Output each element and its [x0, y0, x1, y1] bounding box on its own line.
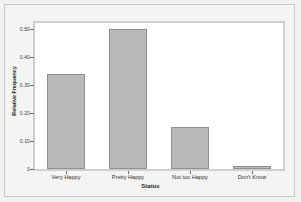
y-axis-tick-label: 0.20: [20, 110, 30, 116]
y-axis-tick-mark: [30, 29, 34, 30]
x-axis-tick-label: Don't Know: [238, 174, 266, 180]
chart-screenshot: 00.100.200.300.400.50 Relative Frequency…: [0, 0, 301, 202]
bar: [171, 127, 209, 169]
x-axis-title: Status: [0, 183, 301, 189]
y-axis-tick-label: 0.10: [20, 138, 30, 144]
x-axis-tick-label: Pretty Happy: [112, 174, 144, 180]
bar: [109, 29, 147, 169]
x-axis-tick-label: Very Happy: [52, 174, 81, 180]
y-axis-title: Relative Frequency: [11, 41, 17, 141]
y-axis-tick-mark: [30, 169, 34, 170]
y-axis-tick-mark: [30, 141, 34, 142]
bar-chart-figure: 00.100.200.300.400.50 Relative Frequency…: [0, 0, 301, 202]
y-axis-tick-label: 0.40: [20, 54, 30, 60]
y-axis-tick-mark: [30, 57, 34, 58]
y-axis-tick-label: 0.30: [20, 82, 30, 88]
x-axis-tick-label: Not too Happy: [172, 174, 208, 180]
plot-area: [35, 23, 283, 169]
bar: [233, 166, 271, 169]
y-axis-tick-label: 0.50: [20, 26, 30, 32]
y-axis-tick-mark: [30, 85, 34, 86]
bar: [47, 74, 85, 169]
y-axis-tick-mark: [30, 113, 34, 114]
